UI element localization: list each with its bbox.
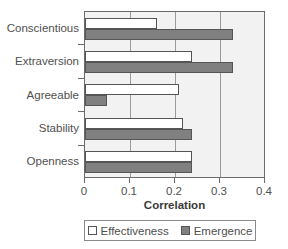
ylabel-openness: Openness xyxy=(0,155,79,167)
xticklabel-0: 0 xyxy=(64,185,104,197)
ytick-2 xyxy=(78,78,84,79)
bar-stability-emergence xyxy=(85,129,192,140)
bar-row-emergence xyxy=(85,62,264,73)
bar-row-effectiveness xyxy=(85,18,264,29)
bar-agreeable-effectiveness xyxy=(85,84,179,95)
white-square-icon xyxy=(88,226,97,235)
bar-conscientious-effectiveness xyxy=(85,18,157,29)
x-axis-title: Correlation xyxy=(84,199,265,211)
legend-item-emergence: Emergence xyxy=(181,225,253,237)
bar-openness-effectiveness xyxy=(85,151,192,162)
xtick-0.1 xyxy=(129,178,130,183)
ylabel-agreeable: Agreeable xyxy=(0,89,79,101)
bar-row-effectiveness xyxy=(85,51,264,62)
bar-row-emergence xyxy=(85,29,264,40)
bar-openness-emergence xyxy=(85,162,192,173)
bar-chart: Conscientious Extraversion Agreeable Sta… xyxy=(0,0,288,249)
chart-legend: Effectiveness Emergence xyxy=(84,220,256,241)
ytick-3 xyxy=(78,111,84,112)
bar-stability-effectiveness xyxy=(85,118,183,129)
ylabel-stability: Stability xyxy=(0,122,79,134)
plot-area xyxy=(84,11,265,178)
legend-item-effectiveness: Effectiveness xyxy=(88,225,169,237)
xticklabel-0.2: 0.2 xyxy=(154,185,194,197)
bar-agreeable-emergence xyxy=(85,95,107,106)
bar-row-emergence xyxy=(85,95,264,106)
bar-row-effectiveness xyxy=(85,118,264,129)
bar-row-effectiveness xyxy=(85,151,264,162)
band-extraversion xyxy=(85,45,264,78)
gray-square-icon xyxy=(181,226,190,235)
legend-label-emergence: Emergence xyxy=(194,225,253,237)
ytick-1 xyxy=(78,44,84,45)
bar-row-effectiveness xyxy=(85,84,264,95)
ylabel-conscientious: Conscientious xyxy=(0,22,79,34)
xticklabel-0.3: 0.3 xyxy=(199,185,239,197)
band-openness xyxy=(85,146,264,179)
band-stability xyxy=(85,112,264,145)
xticklabel-0.4: 0.4 xyxy=(244,185,284,197)
xtick-0.3 xyxy=(219,178,220,183)
xtick-0.4 xyxy=(264,178,265,183)
xtick-0.2 xyxy=(174,178,175,183)
band-conscientious xyxy=(85,12,264,45)
xtick-0 xyxy=(84,178,85,183)
bar-extraversion-effectiveness xyxy=(85,51,192,62)
bar-extraversion-emergence xyxy=(85,62,233,73)
bar-conscientious-emergence xyxy=(85,29,233,40)
band-agreeable xyxy=(85,79,264,112)
ytick-4 xyxy=(78,145,84,146)
ylabel-extraversion: Extraversion xyxy=(0,55,79,67)
legend-label-effectiveness: Effectiveness xyxy=(101,225,169,237)
bar-row-emergence xyxy=(85,129,264,140)
bar-row-emergence xyxy=(85,162,264,173)
xticklabel-0.1: 0.1 xyxy=(109,185,149,197)
